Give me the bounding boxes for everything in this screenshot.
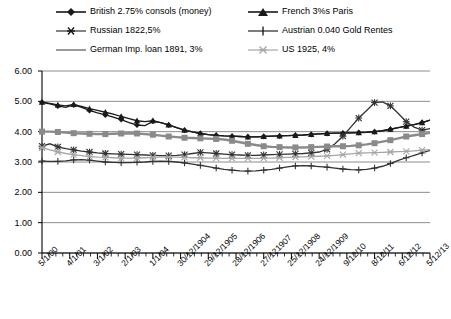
y-tick-label: 3.00 [2, 157, 32, 167]
y-tick-label: 2.00 [2, 187, 32, 197]
y-tick-label: 4.00 [2, 127, 32, 137]
y-tick-label: 5.00 [2, 96, 32, 106]
y-tick-label: 1.00 [2, 218, 32, 228]
y-tick-label: 0.00 [2, 248, 32, 258]
y-tick-label: 6.00 [2, 66, 32, 76]
